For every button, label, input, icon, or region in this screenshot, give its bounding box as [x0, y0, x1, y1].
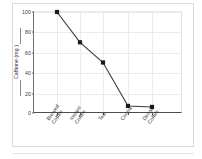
chart-figure: Caffeine (mg ) 100 80 60 40 20 0 [0, 0, 202, 159]
series-markers [55, 10, 154, 109]
data-point-tea[interactable] [101, 60, 105, 64]
data-point-instant-coffee[interactable] [78, 40, 82, 44]
data-point-brewed-coffee[interactable] [55, 10, 59, 14]
data-series-layer [0, 0, 202, 159]
series-line-caffeine [57, 12, 152, 107]
figure-bottom-rule [12, 153, 194, 154]
